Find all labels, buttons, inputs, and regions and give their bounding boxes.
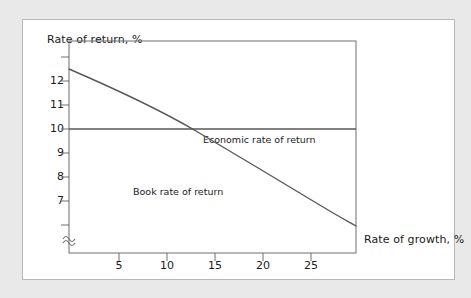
chart-plot-area: Rate of return, % Rate of growth, % 12 1… [23, 20, 456, 281]
chart-svg [23, 20, 456, 281]
figure-frame: Rate of return, % Rate of growth, % 12 1… [22, 19, 455, 280]
plot-box [69, 41, 356, 253]
x-axis-ticks [119, 253, 311, 261]
y-axis-ticks [61, 57, 69, 225]
book-rate-of-return-curve [69, 69, 356, 226]
